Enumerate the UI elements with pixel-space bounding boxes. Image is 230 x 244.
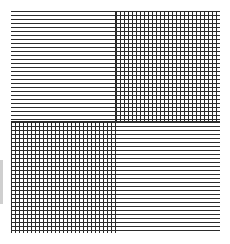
page-edge-artifact	[0, 160, 3, 204]
hatch-pattern-figure	[11, 11, 220, 233]
swatch-bottom-left	[11, 122, 116, 233]
swatch-bottom-right	[116, 122, 220, 233]
swatch-top-right	[116, 11, 220, 122]
swatch-top-left	[11, 11, 116, 122]
